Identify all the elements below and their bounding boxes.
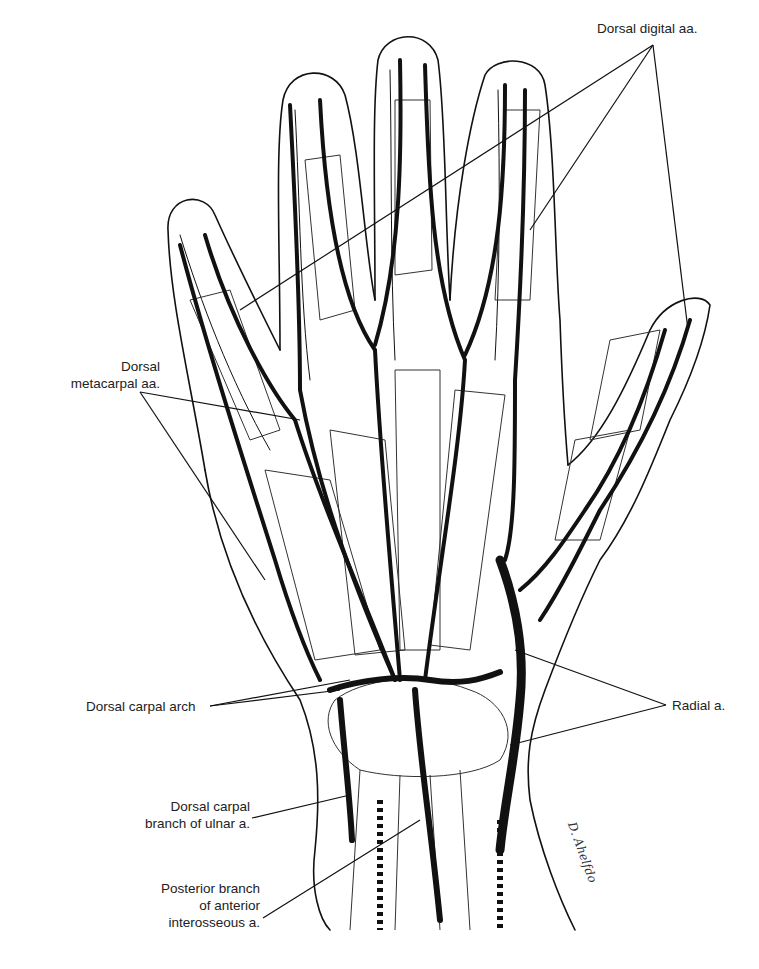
label-line: Dorsal carpal bbox=[100, 798, 250, 815]
label-line: metacarpal aa. bbox=[60, 375, 160, 392]
leader-lines bbox=[140, 45, 688, 918]
label-dorsal-metacarpal-aa: Dorsal metacarpal aa. bbox=[60, 358, 160, 392]
label-dorsal-digital-aa: Dorsal digital aa. bbox=[597, 20, 698, 37]
label-line: interosseous a. bbox=[110, 914, 260, 931]
label-line: Dorsal bbox=[60, 358, 160, 375]
label-dorsal-carpal-branch-ulnar: Dorsal carpal branch of ulnar a. bbox=[100, 798, 250, 832]
label-line: Posterior branch bbox=[110, 880, 260, 897]
label-line: branch of ulnar a. bbox=[100, 815, 250, 832]
label-radial-a: Radial a. bbox=[672, 697, 725, 714]
arteries bbox=[180, 60, 690, 920]
label-posterior-branch-anterior-interosseous: Posterior branch of anterior interosseou… bbox=[110, 880, 260, 931]
label-line: of anterior bbox=[110, 897, 260, 914]
label-dorsal-carpal-arch: Dorsal carpal arch bbox=[86, 698, 196, 715]
